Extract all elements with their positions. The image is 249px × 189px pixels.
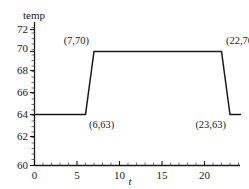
y-axis-major-ticks bbox=[30, 30, 35, 166]
y-tick-label-62: 62 bbox=[17, 130, 28, 142]
x-tick-label-0: 0 bbox=[32, 169, 38, 181]
x-axis-title: t bbox=[128, 175, 132, 187]
x-tick-label-10: 10 bbox=[114, 169, 126, 181]
annotation-rise-bottom: (6,63) bbox=[89, 119, 115, 131]
y-tick-label-72: 72 bbox=[17, 23, 28, 35]
y-tick-label-68: 68 bbox=[17, 64, 29, 76]
temperature-step-chart: temp 72 70 68 66 64 62 60 bbox=[0, 0, 249, 189]
y-tick-label-60: 60 bbox=[17, 159, 29, 171]
x-tick-label-20: 20 bbox=[199, 169, 211, 181]
y-tick-label-70: 70 bbox=[17, 42, 29, 54]
x-tick-label-5: 5 bbox=[74, 169, 80, 181]
annotation-rise-top: (7,70) bbox=[64, 35, 90, 47]
annotation-fall-top: (22,70) bbox=[226, 35, 249, 47]
x-tick-label-15: 15 bbox=[157, 169, 169, 181]
y-tick-label-66: 66 bbox=[17, 86, 29, 98]
annotation-fall-bottom: (23,63) bbox=[195, 119, 226, 131]
temperature-data-line bbox=[35, 52, 242, 115]
y-tick-label-64: 64 bbox=[17, 108, 29, 120]
y-axis-title: temp bbox=[23, 9, 45, 21]
chart-figure: temp 72 70 68 66 64 62 60 bbox=[0, 0, 249, 189]
